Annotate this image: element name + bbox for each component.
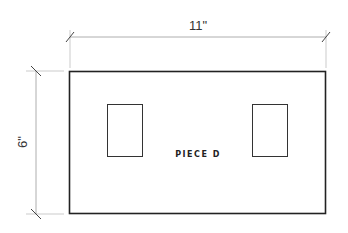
right-cutout xyxy=(253,105,288,157)
left-cutout xyxy=(108,105,143,157)
width-label: 11" xyxy=(189,18,207,33)
height-label: 6" xyxy=(15,136,30,148)
width-dimension: 11" xyxy=(66,18,330,68)
height-dimension: 6" xyxy=(15,66,64,219)
piece-label: PIECE D xyxy=(175,150,221,159)
piece-diagram: 11" 6" PIECE D xyxy=(0,0,348,233)
